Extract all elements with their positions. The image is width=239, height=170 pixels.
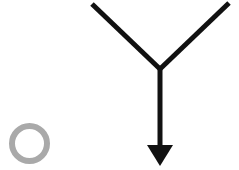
arrowhead-down-icon [147, 145, 173, 166]
arrow-right-branch [160, 3, 229, 69]
figure-svg: Y-shaped arrow diagram with gray ring [0, 0, 239, 170]
gray-ring-icon [12, 126, 47, 161]
arrow-left-branch [92, 4, 160, 69]
diagram-canvas: Y-shaped arrow diagram with gray ring [0, 0, 239, 170]
y-arrow-icon [92, 3, 229, 166]
